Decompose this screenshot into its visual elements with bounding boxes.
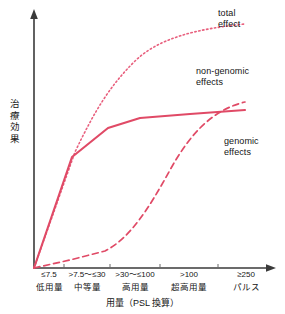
x-axis-category-labels: 低用量 中等量 高用量 超高用量 パルス [34,282,282,292]
dose-response-chart: 治 療 効 果 total effect non-genomic effects… [0,0,285,314]
series-non-genomic-effects [34,102,245,268]
y-axis-title-char: 効 [8,121,22,133]
y-axis-title-char: 療 [8,110,22,122]
x-tick-label-0: ≤7.5 [34,270,64,280]
y-axis [30,9,38,268]
y-axis-title-char: 治 [8,98,22,110]
annotation-genomic-effects: genomic effects [224,136,259,158]
series-genomic-effects [34,110,245,268]
y-axis-title-char: 果 [8,133,22,145]
x-category-label-0: 低用量 [34,282,64,292]
series-total-effect [34,24,245,268]
x-tick-label-3: >100 [160,270,218,280]
x-tick-label-2: >30～≤100 [110,270,160,280]
x-axis-tick-labels: ≤7.5 >7.5～≤30 >30～≤100 >100 ≥250 [34,270,282,280]
x-tick-label-1: >7.5～≤30 [64,270,110,280]
x-axis-title: 用量（PSL 換算） [0,296,285,309]
x-category-label-1: 中等量 [64,282,110,292]
x-category-label-2: 高用量 [110,282,160,292]
y-axis-arrowhead [30,9,38,19]
x-tick-label-4: ≥250 [218,270,274,280]
x-category-label-3: 超高用量 [160,282,218,292]
annotation-total-effect: total effect [218,8,240,30]
y-axis-title: 治 療 効 果 [8,98,22,144]
x-category-label-4: パルス [218,282,274,292]
annotation-non-genomic-effects: non-genomic effects [196,66,249,88]
